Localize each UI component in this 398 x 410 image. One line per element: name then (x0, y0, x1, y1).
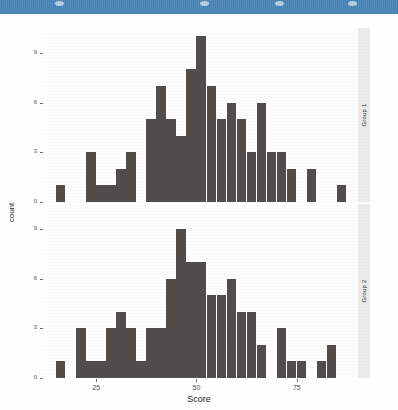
facet-strip-group-1: Group 1 (358, 28, 370, 202)
histogram-bar (227, 103, 236, 202)
histogram-bar (96, 185, 105, 202)
histogram-bar (126, 328, 135, 378)
chrome-dot-2[interactable] (200, 1, 209, 6)
histogram-bar (337, 185, 346, 202)
histogram-bar (297, 361, 306, 378)
histogram-bar (146, 328, 155, 378)
histogram-bar (277, 328, 286, 378)
facet-strip-label-group-1: Group 1 (361, 103, 367, 126)
histogram-bar (217, 295, 226, 378)
histogram-bar (116, 169, 125, 202)
y-axis-tick-mark (40, 328, 43, 329)
facet-strip-group-2: Group 2 (358, 204, 370, 378)
histogram-bar (106, 185, 115, 202)
x-axis-tick-mark (196, 379, 197, 382)
y-axis-tick-mark (40, 229, 43, 230)
histogram-bar (96, 361, 105, 378)
histogram-bar (307, 169, 316, 202)
y-axis-tick-mark (40, 103, 43, 104)
histogram-bar (257, 345, 266, 378)
y-axis-tick-label: 0 (21, 374, 37, 380)
histogram-bar (327, 345, 336, 378)
histogram-bar (156, 86, 165, 202)
facet-strip-label-group-2: Group 2 (361, 279, 367, 302)
histogram-bar (56, 185, 65, 202)
histogram-bar (156, 328, 165, 378)
histogram-bar (86, 152, 95, 202)
y-axis-title: count (7, 183, 16, 243)
y-axis-tick-label: 3 (21, 324, 37, 330)
histogram-bar (126, 152, 135, 202)
x-axis-tick-mark (297, 379, 298, 382)
histogram-bar (166, 119, 175, 202)
x-axis-tick-mark (96, 379, 97, 382)
chrome-dot-1[interactable] (55, 1, 64, 6)
histogram-bar (207, 295, 216, 378)
histogram-bar (237, 312, 246, 378)
x-axis-tick-label: 50 (193, 384, 201, 391)
histogram-bar (106, 328, 115, 378)
y-axis-tick-label: 6 (21, 99, 37, 105)
histogram-bar (196, 262, 205, 378)
histogram-plot: count Group 1 Group 2 0369 0369 255075 S… (0, 14, 398, 410)
facet-panel-group-1 (44, 28, 357, 202)
histogram-bar (176, 229, 185, 378)
histogram-bar (267, 152, 276, 202)
histogram-bar (146, 119, 155, 202)
histogram-bar (217, 119, 226, 202)
histogram-bar (257, 103, 266, 202)
histogram-bar (116, 312, 125, 378)
chrome-dot-4[interactable] (348, 1, 357, 6)
x-axis-title: Score (0, 394, 398, 404)
histogram-bar (196, 36, 205, 202)
y-axis-tick-mark (40, 279, 43, 280)
histogram-bar (176, 136, 185, 202)
histogram-bar (166, 279, 175, 378)
y-axis-tick-label: 0 (21, 198, 37, 204)
y-axis-tick-mark (40, 152, 43, 153)
facet-panel-group-2 (44, 204, 357, 378)
histogram-bar (317, 361, 326, 378)
histogram-bar (247, 152, 256, 202)
y-axis-tick-label: 3 (21, 148, 37, 154)
window-title-bar (0, 0, 398, 14)
histogram-bar (86, 361, 95, 378)
histogram-bar (136, 361, 145, 378)
y-axis-tick-mark (40, 202, 43, 203)
y-axis-tick-label: 6 (21, 275, 37, 281)
histogram-bar (186, 262, 195, 378)
y-axis-tick-label: 9 (21, 49, 37, 55)
histogram-bar (207, 86, 216, 202)
histogram-bar (227, 279, 236, 378)
histogram-bar (287, 169, 296, 202)
histogram-bar (237, 119, 246, 202)
histogram-bar (247, 312, 256, 378)
histogram-bar (287, 361, 296, 378)
chrome-dot-3[interactable] (275, 1, 284, 6)
histogram-bar (186, 69, 195, 202)
x-axis-tick-label: 75 (293, 384, 301, 391)
x-axis-tick-label: 25 (92, 384, 100, 391)
histogram-bar (56, 361, 65, 378)
histogram-bar (277, 152, 286, 202)
y-axis-tick-mark (40, 378, 43, 379)
y-axis-tick-label: 9 (21, 225, 37, 231)
y-axis-tick-mark (40, 53, 43, 54)
histogram-bar (76, 328, 85, 378)
